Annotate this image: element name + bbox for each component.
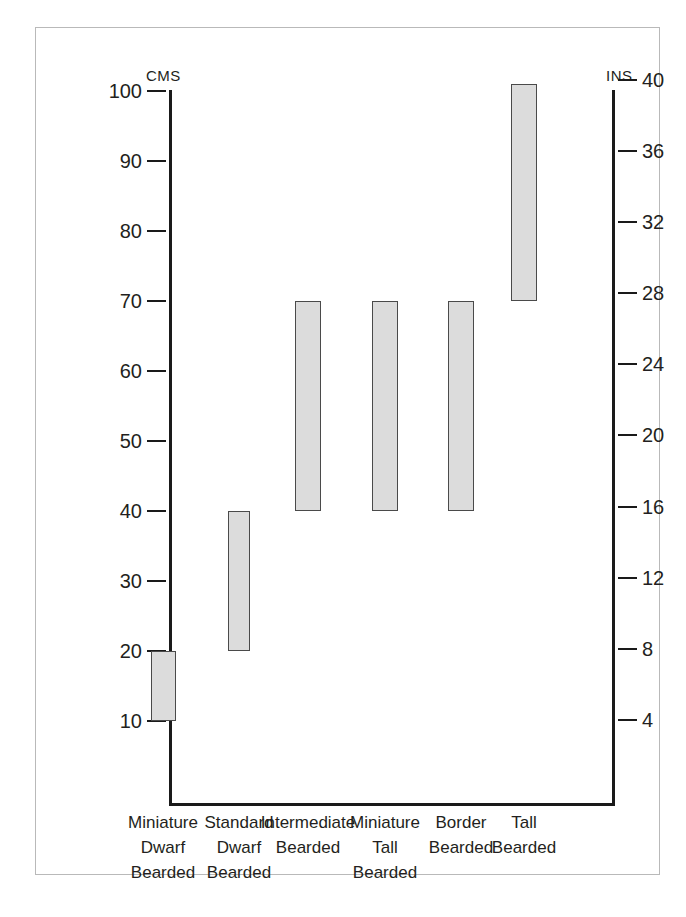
- left-tick-label: 90: [98, 151, 142, 171]
- bar-intermediate-bearded[interactable]: [295, 301, 321, 511]
- left-tick-mark: [147, 440, 166, 442]
- right-tick-label: 20: [642, 425, 686, 445]
- right-tick-mark: [618, 434, 637, 436]
- right-tick-mark: [618, 292, 637, 294]
- right-tick-label: 32: [642, 212, 686, 232]
- bar-tall-bearded[interactable]: [511, 84, 537, 301]
- chart-frame: CMS INS 100908070605040302010 4036322824…: [35, 27, 660, 875]
- left-tick-label: 80: [98, 221, 142, 241]
- left-tick-label: 10: [98, 711, 142, 731]
- right-tick-label: 16: [642, 497, 686, 517]
- left-tick-mark: [147, 90, 166, 92]
- right-tick-label: 40: [642, 70, 686, 90]
- right-tick-mark: [618, 506, 637, 508]
- bottom-axis-line: [169, 803, 615, 806]
- left-tick-label: 60: [98, 361, 142, 381]
- right-tick-mark: [618, 363, 637, 365]
- right-tick-mark: [618, 150, 637, 152]
- category-label-tall-bearded: TallBearded: [480, 810, 568, 860]
- page-gutter-text: s-ste-r5len: [0, 0, 34, 917]
- category-label-line: Bearded: [480, 835, 568, 860]
- left-tick-label: 40: [98, 501, 142, 521]
- bar-standard-dwarf-bearded[interactable]: [228, 511, 250, 651]
- left-axis-title: CMS: [146, 67, 181, 84]
- left-tick-label: 50: [98, 431, 142, 451]
- right-tick-label: 24: [642, 354, 686, 374]
- right-tick-mark: [618, 577, 637, 579]
- right-tick-label: 12: [642, 568, 686, 588]
- left-tick-mark: [147, 160, 166, 162]
- right-tick-label: 8: [642, 639, 686, 659]
- left-tick-label: 30: [98, 571, 142, 591]
- left-tick-mark: [147, 510, 166, 512]
- right-tick-mark: [618, 221, 637, 223]
- right-axis-line: [612, 90, 615, 806]
- left-tick-label: 70: [98, 291, 142, 311]
- category-label-line: Bearded: [191, 860, 287, 885]
- bar-miniature-dwarf-bearded[interactable]: [151, 651, 176, 721]
- bar-miniature-tall-bearded[interactable]: [372, 301, 398, 511]
- left-tick-mark: [147, 300, 166, 302]
- right-tick-mark: [618, 648, 637, 650]
- left-tick-label: 100: [98, 81, 142, 101]
- right-tick-mark: [618, 79, 637, 81]
- category-label-line: Tall: [480, 810, 568, 835]
- right-tick-label: 28: [642, 283, 686, 303]
- left-tick-label: 20: [98, 641, 142, 661]
- left-tick-mark: [147, 580, 166, 582]
- right-tick-label: 36: [642, 141, 686, 161]
- category-label-line: Bearded: [337, 860, 433, 885]
- right-tick-mark: [618, 719, 637, 721]
- left-tick-mark: [147, 370, 166, 372]
- right-axis-title: INS: [606, 67, 633, 84]
- right-tick-label: 4: [642, 710, 686, 730]
- left-tick-mark: [147, 230, 166, 232]
- bar-border-bearded[interactable]: [448, 301, 474, 511]
